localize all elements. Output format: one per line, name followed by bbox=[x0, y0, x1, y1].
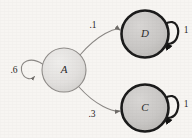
self-loop-a-weight: .6 bbox=[10, 65, 17, 75]
state-diagram: .1 .3 .6 1 1 A D C bbox=[0, 0, 192, 138]
self-loop-d-weight: 1 bbox=[184, 25, 189, 35]
self-loop-a-path bbox=[21, 60, 42, 78]
node-d-label: D bbox=[140, 27, 149, 39]
node-c[interactable]: C bbox=[122, 85, 169, 132]
edge-a-to-c-weight: .3 bbox=[88, 109, 95, 119]
node-a[interactable]: A bbox=[42, 48, 86, 92]
edge-a-to-d-path bbox=[80, 29, 120, 55]
edge-a-to-d: .1 bbox=[80, 20, 120, 55]
edge-a-to-c: .3 bbox=[79, 87, 120, 119]
diagram-canvas: .1 .3 .6 1 1 A D C bbox=[0, 0, 192, 138]
edge-a-to-d-weight: .1 bbox=[89, 20, 96, 30]
self-loop-a: .6 bbox=[10, 60, 42, 78]
node-d[interactable]: D bbox=[122, 11, 169, 58]
node-c-label: C bbox=[141, 101, 149, 113]
edge-a-to-c-path bbox=[79, 87, 120, 111]
node-a-label: A bbox=[60, 63, 68, 75]
self-loop-c-weight: 1 bbox=[184, 99, 189, 109]
